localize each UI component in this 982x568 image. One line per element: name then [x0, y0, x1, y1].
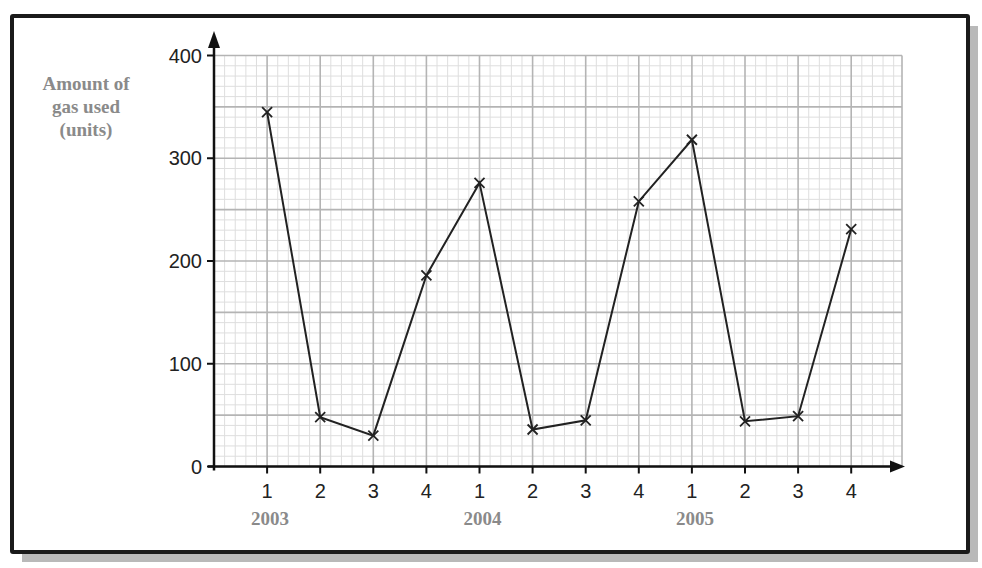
- x-tick-label: 3: [368, 480, 379, 502]
- x-tick-labels: 123412341234: [262, 480, 857, 502]
- y-tick-label: 300: [169, 147, 202, 169]
- x-tick-label: 1: [686, 480, 697, 502]
- year-labels: 200320042005: [251, 508, 714, 529]
- line-chart: 0100200300400 123412341234 200320042005: [0, 0, 982, 568]
- x-tick-label: 2: [315, 480, 326, 502]
- x-tick-label: 2: [527, 480, 538, 502]
- x-tick-label: 3: [580, 480, 591, 502]
- x-tick-label: 4: [633, 480, 644, 502]
- year-label: 2003: [251, 508, 289, 529]
- year-label: 2004: [464, 508, 503, 529]
- x-tick-label: 2: [739, 480, 750, 502]
- x-tick-label: 4: [846, 480, 857, 502]
- year-label: 2005: [676, 508, 714, 529]
- x-tick-label: 1: [474, 480, 485, 502]
- x-tick-label: 4: [421, 480, 432, 502]
- x-tick-label: 1: [262, 480, 273, 502]
- y-axis-arrow-icon: [208, 31, 220, 48]
- y-tick-label: 200: [169, 250, 202, 272]
- x-tick-label: 3: [793, 480, 804, 502]
- series-line: [267, 112, 851, 436]
- y-tick-labels: 0100200300400: [169, 45, 202, 478]
- y-tick-label: 0: [191, 456, 202, 478]
- data-series: [262, 107, 856, 441]
- y-tick-label: 400: [169, 45, 202, 67]
- y-tick-label: 100: [169, 353, 202, 375]
